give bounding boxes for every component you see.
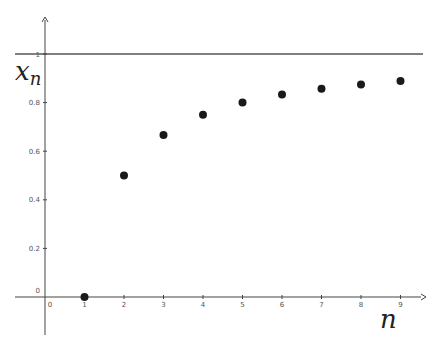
data-point [318,85,326,93]
scatter-chart: 012345678900.20.40.60.81xnn [0,0,439,347]
y-tick-label: 0.2 [29,245,40,253]
y-tick-label: 0 [36,287,40,295]
data-point [160,131,168,139]
data-point [239,99,247,107]
data-point [120,172,128,180]
x-tick-label: 2 [122,301,126,309]
y-tick-label: 1 [36,51,40,59]
x-axis-arrow-icon [421,294,426,300]
y-tick-label: 0.6 [29,148,41,156]
x-tick-label: 8 [359,301,363,309]
x-tick-label: 1 [82,301,86,309]
y-tick-label: 0.8 [29,99,40,107]
data-point [199,111,207,119]
x-tick-label: 3 [161,301,165,309]
data-point [278,91,286,99]
x-tick-label: 7 [319,301,323,309]
x-tick-label: 4 [201,301,206,309]
x-tick-label: 5 [240,301,244,309]
y-tick-label: 0.4 [29,196,41,204]
data-point [81,293,89,301]
x-tick-label: 0 [48,301,52,309]
x-axis-label: n [380,304,397,334]
y-axis-label: xn [15,56,41,89]
x-tick-label: 9 [398,301,402,309]
data-point [397,77,405,85]
y-axis-label-subscript: n [30,68,42,89]
x-tick-label: 6 [280,301,285,309]
data-point [357,80,365,88]
